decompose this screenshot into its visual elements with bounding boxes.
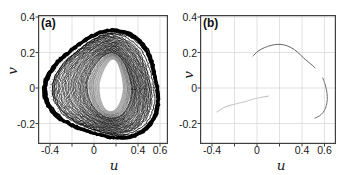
panel-b: (b) u v -0.400.40.6-0.200.20.4: [200, 15, 336, 144]
panel-b-plot: [200, 15, 336, 144]
curves: [43, 29, 160, 139]
series-right-arc: [315, 78, 327, 118]
x-tick-label: 0.4: [131, 145, 146, 156]
curves: [217, 44, 327, 118]
gridlines: [201, 16, 335, 143]
x-tick-label: 0.6: [153, 145, 168, 156]
panel-a-plot: [38, 15, 168, 144]
y-tick-label: 0.2: [153, 48, 197, 59]
panel-b-tag: (b): [203, 16, 218, 30]
y-tick-label: 0.4: [0, 12, 35, 23]
x-tick-label: 0.4: [295, 145, 310, 156]
panel-a: (a) u v -0.400.40.6-0.200.20.4: [38, 15, 168, 144]
x-tick-label: 0: [91, 145, 97, 156]
y-tick-label: 0: [0, 83, 35, 94]
x-tick-label: -0.4: [41, 145, 59, 156]
x-tick-label: -0.4: [203, 145, 221, 156]
axes-frame: [201, 16, 336, 144]
y-tick-label: 0.2: [0, 48, 35, 59]
series-upper-arc: [253, 44, 315, 68]
panel-a-ylabel: v: [4, 67, 20, 75]
figure-canvas: (a) u v -0.400.40.6-0.200.20.4 (b) u v -…: [0, 0, 351, 175]
panel-a-xlabel: u: [110, 157, 119, 173]
series-faint-segment: [217, 96, 268, 112]
x-tick-label: 0.6: [317, 145, 332, 156]
y-tick-label: 0: [153, 83, 197, 94]
y-tick-label: 0.4: [153, 12, 197, 23]
panel-b-ylabel: v: [180, 71, 196, 79]
x-tick-label: 0: [254, 145, 260, 156]
panel-a-tag: (a): [41, 16, 56, 30]
panel-b-xlabel: u: [277, 157, 286, 173]
y-tick-label: -0.2: [0, 119, 35, 130]
tick-marks: [198, 17, 325, 147]
y-tick-label: -0.2: [153, 119, 197, 130]
